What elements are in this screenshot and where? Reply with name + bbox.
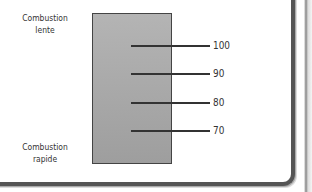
tick-line-80 xyxy=(131,102,210,104)
tick-line-100 xyxy=(131,45,210,47)
fast-combustion-label: Combustion rapide xyxy=(13,141,77,165)
tick-label-100: 100 xyxy=(213,39,230,51)
tick-label-70: 70 xyxy=(213,124,224,136)
label-line: lente xyxy=(17,24,73,36)
label-line: rapide xyxy=(13,153,77,165)
scale-bar xyxy=(92,13,172,164)
slow-combustion-label: Combustion lente xyxy=(17,12,73,36)
outer-page-edge xyxy=(302,0,312,192)
label-line: Combustion xyxy=(17,12,73,24)
tick-label-90: 90 xyxy=(213,67,224,79)
tick-line-90 xyxy=(131,73,210,75)
tick-line-70 xyxy=(131,130,210,132)
label-line: Combustion xyxy=(13,141,77,153)
tick-label-80: 80 xyxy=(213,96,224,108)
